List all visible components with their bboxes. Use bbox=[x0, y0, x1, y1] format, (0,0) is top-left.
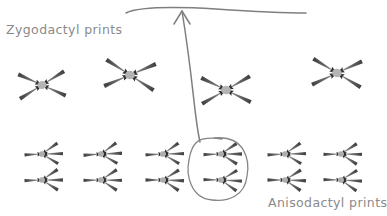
hand-drawn-oval bbox=[188, 138, 248, 201]
zygodactyl-label: Zygodactyl prints bbox=[6, 22, 122, 37]
horizontal-guide-line bbox=[126, 8, 306, 13]
curved-pointer-arrow bbox=[182, 11, 200, 142]
anisodactyl-label: Anisodactyl prints bbox=[268, 195, 387, 210]
